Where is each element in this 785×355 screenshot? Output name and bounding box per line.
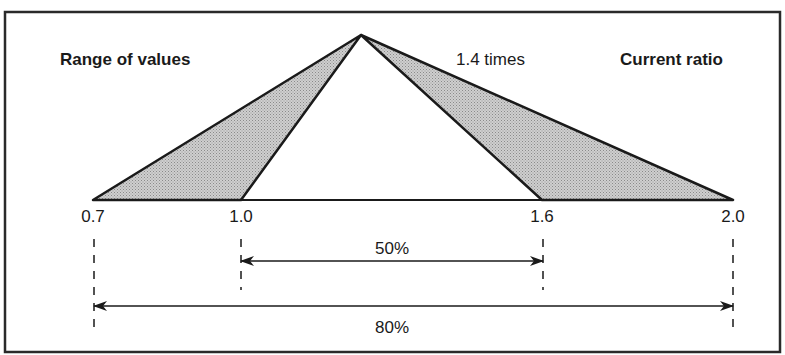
outer-span-label: 80% <box>375 318 409 337</box>
right-title: Current ratio <box>620 50 723 69</box>
inner-span-label: 50% <box>375 239 409 258</box>
left-title: Range of values <box>60 50 190 69</box>
tick-label-1.0: 1.0 <box>229 207 253 226</box>
tick-label-2.0: 2.0 <box>721 207 745 226</box>
apex-label: 1.4 times <box>456 50 525 69</box>
current-ratio-diagram: Range of values 1.4 times Current ratio … <box>0 0 785 355</box>
tick-label-1.6: 1.6 <box>530 207 554 226</box>
tick-label-0.7: 0.7 <box>81 207 105 226</box>
